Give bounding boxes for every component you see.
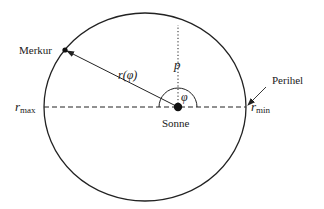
sun-dot — [174, 103, 182, 111]
perihelion-label: Perihel — [272, 74, 303, 86]
phi-label: φ — [181, 90, 188, 104]
r-min-sub: min — [256, 105, 271, 115]
r-min-label: rmin — [251, 99, 271, 115]
r-max-sub: max — [20, 105, 36, 115]
mercury-label: Merkur — [19, 44, 52, 56]
sun-label: Sonne — [162, 117, 190, 129]
p-label: p — [173, 57, 181, 72]
orbit-diagram: Merkur Sonne Perihel r(φ) p φ rmax rmin — [0, 0, 324, 209]
r-max-label: rmax — [15, 99, 36, 115]
mercury-dot — [62, 47, 67, 52]
radius-label: r(φ) — [118, 68, 137, 82]
